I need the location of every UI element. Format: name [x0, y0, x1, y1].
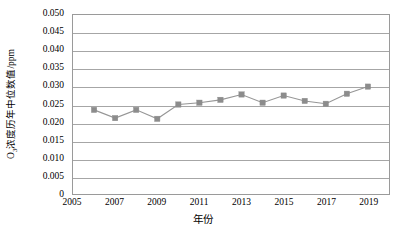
x-axis-tick-label: 2007: [105, 198, 124, 208]
x-axis-tick-label: 2017: [317, 198, 336, 208]
x-axis-tick-label: 2019: [359, 198, 378, 208]
data-point-marker: [197, 100, 202, 105]
data-point-marker: [365, 84, 370, 89]
x-axis-tick-labels: 20052007200920112013201520172019: [72, 198, 390, 212]
y-axis-tick-label: 0.015: [43, 136, 64, 146]
y-axis-tick-label: 0.035: [43, 64, 64, 74]
y-axis-tick-label: 0.050: [43, 9, 64, 19]
data-series: [73, 15, 389, 194]
y-axis-tick-labels: 0.0500.0450.0400.0350.0300.0250.0200.015…: [0, 14, 68, 195]
plot-area: [72, 14, 390, 195]
data-point-marker: [176, 102, 181, 107]
data-point-marker: [302, 98, 307, 103]
x-axis-tick-label: 2011: [190, 198, 209, 208]
x-axis-tick-label: 2009: [147, 198, 166, 208]
data-point-marker: [239, 92, 244, 97]
data-point-marker: [260, 100, 265, 105]
x-axis-tick-label: 2005: [63, 198, 82, 208]
x-axis-title: 年份: [0, 215, 406, 226]
y-axis-tick-label: 0.040: [43, 45, 64, 55]
x-axis-tick-label: 2015: [275, 198, 294, 208]
y-axis-tick-label: 0.045: [43, 27, 64, 37]
y-axis-tick-label: 0.010: [43, 154, 64, 164]
x-axis-tick-label: 2013: [232, 198, 251, 208]
data-point-marker: [323, 101, 328, 106]
data-point-marker: [344, 91, 349, 96]
chart-container: O3浓度历年中位数值/ppm 0.0500.0450.0400.0350.030…: [0, 0, 406, 244]
y-axis-tick-label: 0.030: [43, 82, 64, 92]
y-axis-tick-label: 0.020: [43, 118, 64, 128]
data-point-marker: [134, 107, 139, 112]
data-point-marker: [91, 107, 96, 112]
y-axis-tick-label: 0.025: [43, 100, 64, 110]
y-axis-tick-label: 0.005: [43, 172, 64, 182]
data-point-marker: [112, 115, 117, 120]
data-point-marker: [281, 93, 286, 98]
data-point-marker: [218, 97, 223, 102]
data-point-marker: [155, 116, 160, 121]
